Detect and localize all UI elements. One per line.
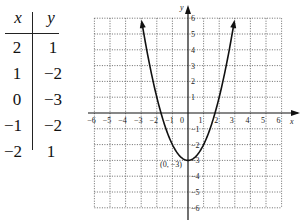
y-tick-label: 4 [191,46,195,55]
x-tick-label: −4 [118,116,127,125]
x-tick-labels: −6−5−4−3−2−10123456 [87,116,280,125]
y-axis-arrow-icon [185,5,191,14]
x-tick-label: 0 [180,116,184,125]
y-tick-label: 6 [191,14,195,23]
x-axis-arrow-icon [291,110,300,116]
y-tick-label: 3 [191,62,195,71]
curve-arrow-left-icon [140,20,146,28]
y-tick-label: −1 [191,125,200,134]
x-tick-label: 4 [245,116,249,125]
y-tick-label: −5 [191,188,200,197]
y-tick-label: −2 [191,141,200,150]
x-axis-label: x [289,117,294,126]
y-tick-label: 1 [191,93,195,102]
x-tick-label: 6 [277,116,281,125]
x-tick-label: 5 [261,116,265,125]
curve-arrow-right-icon [230,20,236,28]
y-axis-label: y [179,3,184,12]
x-tick-label: 2 [214,116,218,125]
x-tick-label: 1 [199,116,203,125]
x-tick-label: −6 [87,116,96,125]
x-tick-label: 3 [230,116,234,125]
y-tick-label: −6 [191,204,200,213]
x-tick-label: −3 [134,116,143,125]
y-tick-label: 2 [191,77,195,86]
x-tick-label: −5 [103,116,112,125]
parabola-graph: −6−5−4−3−2−10123456 654321−1−2−3−4−5−6 x… [0,0,307,223]
y-tick-label: 5 [191,30,195,39]
vertex-label: (0, −3) [160,160,182,169]
y-tick-label: −4 [191,172,200,181]
x-tick-label: −1 [165,116,174,125]
x-tick-label: −2 [150,116,159,125]
